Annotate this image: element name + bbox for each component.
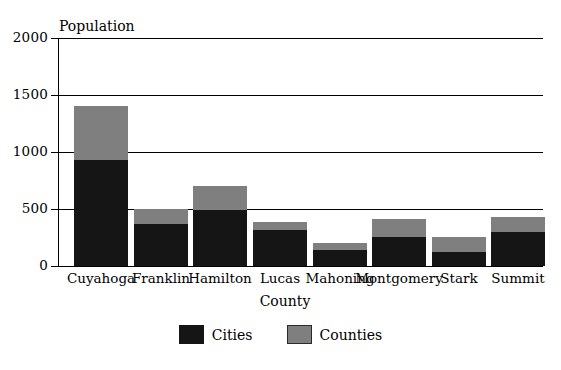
bar-segment-cities <box>253 230 307 266</box>
x-axis-title: County <box>260 294 311 308</box>
gridline-1000 <box>58 152 543 153</box>
bar-segment-cities <box>491 232 545 266</box>
legend-label-counties: Counties <box>320 328 383 342</box>
y-tick-mark-500 <box>51 209 58 210</box>
bar-cuyahoga <box>74 106 128 266</box>
x-tick-label-lucas: Lucas <box>260 272 300 286</box>
x-tick-label-summit: Summit <box>491 272 544 286</box>
y-axis-title: Population <box>59 19 135 33</box>
y-tick-label-1500: 1500 <box>0 88 48 102</box>
population-by-county-chart: Population 2000 1500 1000 500 0 <box>0 0 561 370</box>
bar-segment-counties <box>491 217 545 232</box>
bar-segment-cities <box>193 210 247 266</box>
bar-segment-counties <box>372 219 426 237</box>
bar-segment-counties <box>74 106 128 160</box>
bar-mahoning <box>313 243 367 266</box>
legend-swatch-cities-icon <box>179 325 204 344</box>
gridline-500 <box>58 209 543 210</box>
legend-item-cities: Cities <box>179 325 253 344</box>
legend-swatch-counties-icon <box>287 325 312 344</box>
bar-stark <box>432 237 486 266</box>
x-tick-label-franklin: Franklin <box>132 272 190 286</box>
bar-lucas <box>253 222 307 266</box>
y-tick-mark-0 <box>51 266 58 267</box>
gridline-2000 <box>58 38 543 39</box>
x-tick-label-hamilton: Hamilton <box>188 272 252 286</box>
bar-segment-counties <box>432 237 486 252</box>
bar-segment-cities <box>134 224 188 266</box>
bar-segment-counties <box>193 186 247 210</box>
bar-segment-counties <box>253 222 307 230</box>
y-tick-label-2000: 2000 <box>0 31 48 45</box>
bar-segment-cities <box>432 252 486 266</box>
gridline-1500 <box>58 95 543 96</box>
bar-segment-counties <box>313 243 367 250</box>
bar-hamilton <box>193 186 247 266</box>
bar-segment-cities <box>372 237 426 266</box>
x-tick-label-cuyahoga: Cuyahoga <box>67 272 135 286</box>
bar-franklin <box>134 209 188 266</box>
y-axis-line <box>58 38 59 267</box>
y-tick-label-0: 0 <box>0 259 48 273</box>
legend-label-cities: Cities <box>212 328 253 342</box>
bar-segment-counties <box>134 209 188 224</box>
x-tick-label-stark: Stark <box>440 272 477 286</box>
y-tick-mark-1000 <box>51 152 58 153</box>
legend-item-counties: Counties <box>287 325 383 344</box>
x-axis-line <box>58 266 543 267</box>
y-tick-mark-1500 <box>51 95 58 96</box>
x-tick-label-montgomery: Montgomery <box>355 272 443 286</box>
chart-legend: Cities Counties <box>0 325 561 344</box>
y-tick-label-500: 500 <box>0 202 48 216</box>
y-tick-label-1000: 1000 <box>0 145 48 159</box>
bar-segment-cities <box>74 160 128 266</box>
bar-segment-cities <box>313 250 367 266</box>
y-tick-mark-2000 <box>51 38 58 39</box>
bar-montgomery <box>372 219 426 266</box>
bar-summit <box>491 217 545 266</box>
